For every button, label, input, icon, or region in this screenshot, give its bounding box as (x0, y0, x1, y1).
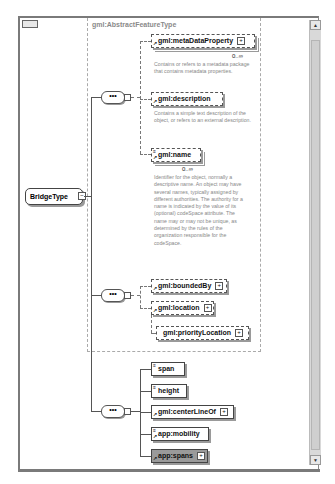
reference-arrow-icon: ↗ (153, 434, 157, 439)
sequence-expander-1[interactable] (124, 94, 131, 101)
expand-icon[interactable]: + (237, 37, 245, 45)
element-app-spans[interactable]: ↗ app:spans+ (151, 449, 208, 463)
reference-arrow-icon: ↗ (153, 41, 157, 46)
seq2-to-bounded (140, 286, 151, 287)
cardinality-metadataproperty: 0..∞ (232, 53, 243, 59)
doc-name: Identifier for the object, normally a de… (154, 174, 244, 247)
doc-description: Contains a simple text description of th… (154, 110, 254, 125)
diagram-tab-icon[interactable] (22, 20, 38, 28)
root-element-bridgetype[interactable]: BridgeType (25, 188, 83, 205)
attribute-icon: ≡ (153, 363, 156, 368)
scroll-down-button[interactable]: ▼ (310, 455, 321, 465)
window-bottom-border (18, 469, 320, 472)
element-gml-description[interactable]: ↗ gml:description (151, 92, 223, 106)
sequence-compositor-1[interactable]: ••• (101, 91, 125, 104)
element-gml-name[interactable]: ≡ ↗ gml:name (151, 148, 201, 162)
expand-icon[interactable]: + (197, 452, 205, 460)
cardinality-name: 0..∞ (182, 166, 193, 172)
seq1-to-meta (140, 41, 151, 42)
seq3-branch (140, 369, 141, 457)
seq3-to-height (140, 391, 151, 392)
reference-arrow-icon: ↗ (153, 286, 157, 291)
connector-root (84, 196, 91, 197)
expand-icon[interactable]: + (215, 282, 223, 290)
reference-arrow-icon: ↗ (153, 456, 157, 461)
seq1-to-name (140, 154, 151, 155)
seq1-to-desc (140, 99, 151, 100)
reference-arrow-icon: ↗ (153, 308, 157, 313)
root-element-label: BridgeType (30, 193, 68, 200)
seq1-branch (140, 41, 141, 154)
scroll-thumb[interactable] (311, 40, 320, 450)
sequence-expander-2[interactable] (124, 292, 131, 299)
seq3-out (131, 411, 140, 412)
connector-seq3 (91, 411, 101, 412)
vertical-scrollbar[interactable]: ▲ ▼ (309, 20, 321, 465)
connector-seq1 (91, 97, 101, 98)
doc-metadataproperty: Contains or refers to a metadata package… (154, 61, 254, 76)
seq2-out (131, 295, 140, 296)
reference-arrow-icon: ↗ (153, 99, 157, 104)
element-gml-metadataproperty[interactable]: ↗ gml:metaDataProperty+ (151, 34, 255, 48)
abstract-feature-type-label: gml:AbstractFeatureType (92, 21, 176, 28)
sequence-expander-3[interactable] (124, 408, 131, 415)
element-height[interactable]: ≡ height (151, 384, 187, 398)
element-gml-centerlineof[interactable]: ↗ gml:centerLineOf+ (151, 405, 234, 419)
scroll-up-button[interactable]: ▲ (310, 20, 321, 30)
expand-icon[interactable]: + (204, 304, 212, 312)
reference-arrow-icon: ↗ (153, 155, 157, 160)
attribute-icon: ≡ (153, 385, 156, 390)
arrow-down-icon: ▼ (313, 457, 318, 463)
connector-seq2 (91, 295, 101, 296)
sequence-compositor-2[interactable]: ••• (101, 289, 125, 302)
location-substitution (151, 315, 152, 333)
seq2-branch (140, 286, 141, 308)
element-span[interactable]: ≡ span (151, 362, 185, 376)
seq3-to-centerline (140, 412, 151, 413)
expand-icon[interactable]: + (220, 408, 228, 416)
element-app-mobility[interactable]: ≡ ↗ app:mobility (151, 427, 209, 441)
seq2-to-location (140, 308, 151, 309)
element-gml-location[interactable]: ↗ gml:location+ (151, 301, 214, 315)
arrow-up-icon: ▲ (313, 22, 318, 28)
element-gml-boundedby[interactable]: ↗ gml:boundedBy+ (151, 279, 227, 293)
sequence-compositor-3[interactable]: ••• (101, 405, 125, 418)
seq1-out (131, 97, 140, 98)
seq3-to-span (140, 369, 151, 370)
seq3-to-spans (140, 456, 151, 457)
element-gml-prioritylocation[interactable]: gml:priorityLocation+ (156, 326, 249, 340)
seq3-to-mobility (140, 434, 151, 435)
expand-icon[interactable]: + (235, 329, 243, 337)
connector-trunk (91, 97, 92, 412)
reference-arrow-icon: ↗ (153, 412, 157, 417)
